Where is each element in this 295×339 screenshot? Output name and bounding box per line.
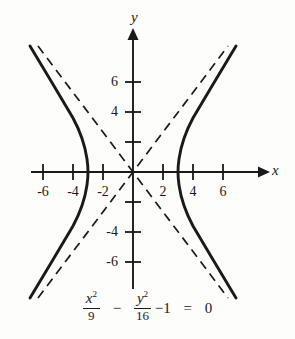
y-axis — [128, 28, 139, 289]
y-tick-label-4: 4 — [96, 105, 118, 119]
x-tick-label-minus-2: -2 — [88, 185, 118, 199]
equation-caption: x2 9 − y2 16 −1 = 0 — [0, 292, 295, 325]
x-axis-label: x — [272, 163, 279, 178]
x-tick-label-2: 2 — [151, 185, 175, 199]
y-tick-label-minus-4: -4 — [88, 225, 118, 239]
y-tick-label-minus-6: -6 — [88, 255, 118, 269]
y-squared-over-16: y2 16 — [134, 291, 151, 324]
minus-operator: − — [104, 300, 130, 317]
right-hand-side: 0 — [205, 300, 213, 317]
x-tick-label-4: 4 — [181, 185, 205, 199]
equals-sign: = — [175, 300, 201, 317]
y-exponent: 2 — [144, 289, 149, 299]
x-squared-over-9: x2 9 — [83, 291, 100, 324]
y-tick-label-6: 6 — [96, 75, 118, 89]
y-axis-label: y — [131, 10, 138, 25]
hyperbola-figure: y x -6 -4 -2 2 4 6 6 4 -4 -6 x2 9 − y2 1… — [0, 0, 295, 339]
x-squared-numerator: x2 — [83, 291, 100, 307]
y-squared-numerator: y2 — [134, 291, 151, 307]
x-exponent: 2 — [92, 289, 97, 299]
y-denominator: 16 — [134, 309, 151, 324]
x-tick-label-6: 6 — [211, 185, 235, 199]
minus-one-term: −1 — [155, 300, 171, 317]
y-variable: y — [137, 290, 144, 306]
x-tick-label-minus-4: -4 — [58, 185, 88, 199]
x-denominator: 9 — [83, 309, 100, 324]
x-tick-label-minus-6: -6 — [28, 185, 58, 199]
x-axis — [31, 167, 270, 178]
